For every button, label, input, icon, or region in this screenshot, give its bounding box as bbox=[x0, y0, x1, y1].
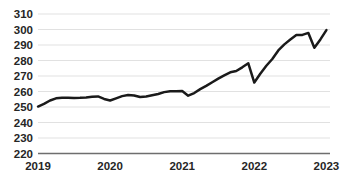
y-tick-label: 250 bbox=[14, 101, 33, 113]
chart-canvas: 310300290280270260250240230220 201920202… bbox=[0, 0, 341, 185]
y-tick-label: 260 bbox=[14, 86, 33, 98]
gridlines bbox=[38, 14, 330, 138]
y-tick-label: 220 bbox=[14, 148, 33, 160]
series-line-index bbox=[38, 30, 326, 106]
y-tick-label: 240 bbox=[14, 117, 33, 129]
y-tick-label: 290 bbox=[14, 39, 33, 51]
y-tick-label: 280 bbox=[14, 55, 33, 67]
x-tick-label: 2021 bbox=[169, 160, 195, 172]
x-tick-label: 2023 bbox=[314, 160, 340, 172]
x-tick-label: 2020 bbox=[97, 160, 123, 172]
y-tick-label: 270 bbox=[14, 70, 33, 82]
y-axis-tick-labels: 310300290280270260250240230220 bbox=[14, 8, 33, 160]
x-axis-tick-labels: 20192020202120222023 bbox=[25, 160, 339, 172]
y-tick-label: 300 bbox=[14, 24, 33, 36]
x-tick-label: 2022 bbox=[241, 160, 267, 172]
y-tick-label: 310 bbox=[14, 8, 33, 20]
y-tick-label: 230 bbox=[14, 132, 33, 144]
x-tick-label: 2019 bbox=[25, 160, 51, 172]
line-chart: 310300290280270260250240230220 201920202… bbox=[0, 0, 341, 185]
